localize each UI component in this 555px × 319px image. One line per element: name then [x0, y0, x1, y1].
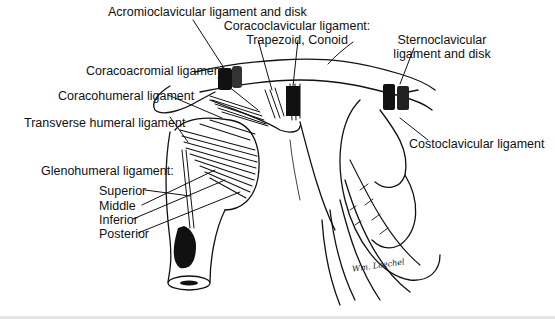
- costoclavicular-label: Costoclavicular ligament: [409, 137, 544, 151]
- sternoclavicular-label-line2: ligament and disk: [390, 47, 494, 61]
- coracoacromial-label: Coracoacromial ligament: [86, 64, 224, 78]
- anatomy-figure: Acromioclavicular ligament and disk Cora…: [0, 0, 555, 319]
- acromioclavicular-label: Acromioclavicular ligament and disk: [108, 5, 307, 19]
- transverse-humeral-label: Transverse humeral ligament: [24, 116, 185, 130]
- glenohumeral-superior-label: Superior: [99, 184, 146, 198]
- glenohumeral-heading: Glenohumeral ligament:: [41, 164, 174, 178]
- coracoclavicular-label-line1: Coracoclavicular ligament:: [212, 19, 382, 33]
- coracoclavicular-label-line2: Trapezoid, Conoid: [212, 33, 382, 47]
- glenohumeral-middle-label: Middle: [99, 199, 136, 213]
- glenohumeral-inferior-label: Inferior: [99, 213, 138, 227]
- sternoclavicular-label-line1: Sternoclavicular: [390, 33, 494, 47]
- coracohumeral-label: Coracohumeral ligament: [58, 89, 194, 103]
- glenohumeral-posterior-label: Posterior: [99, 227, 149, 241]
